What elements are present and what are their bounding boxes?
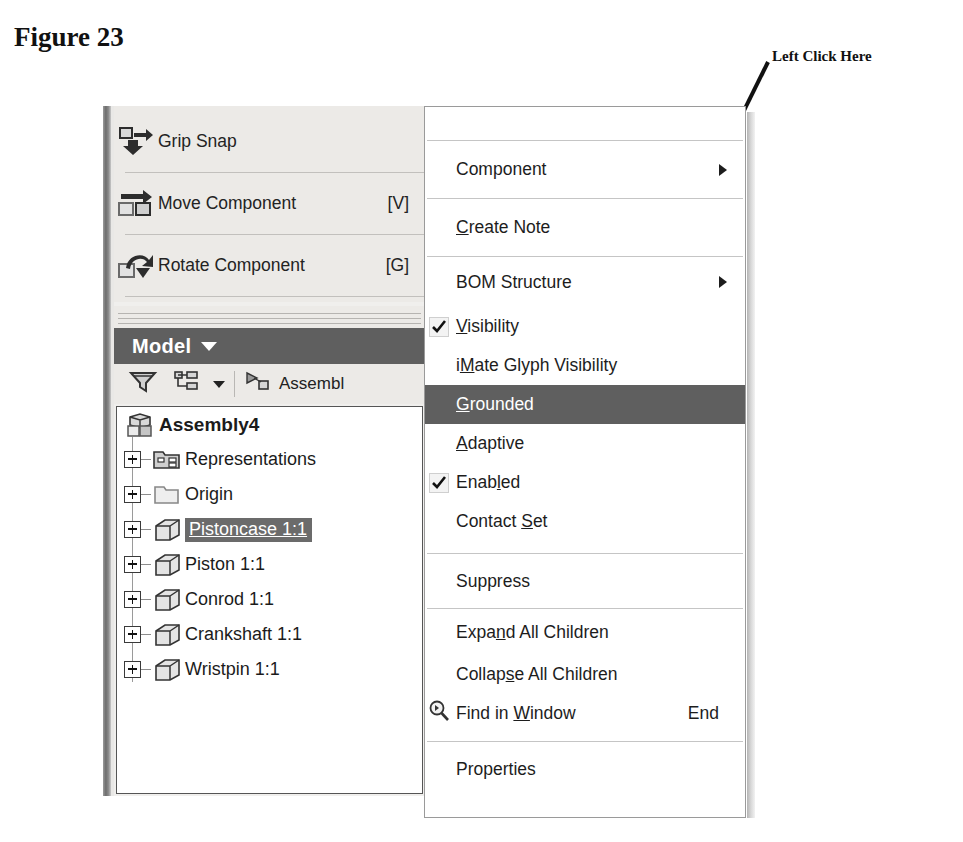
panel-splitter[interactable] xyxy=(114,306,425,328)
menu-item-bom-structure[interactable]: BOM Structure xyxy=(425,257,745,307)
model-tab[interactable]: Model xyxy=(114,328,425,364)
menu-item-properties[interactable]: Properties xyxy=(425,742,745,796)
menu-item-label: Expand All Children xyxy=(453,622,609,643)
tree-item-label: Representations xyxy=(185,449,316,470)
funnel-filter-icon[interactable] xyxy=(128,369,158,399)
menu-check xyxy=(425,699,453,728)
context-menu: Component Create Note BOM Structure Visi… xyxy=(424,106,746,818)
checkmark-icon xyxy=(429,473,449,493)
assembly-view-label: Assembl xyxy=(279,374,344,394)
menu-item-contact-set[interactable]: Contact Set xyxy=(425,502,745,541)
callout-label: Left Click Here xyxy=(772,48,872,65)
tree-root-assembly4[interactable]: Assembly4 xyxy=(117,407,422,442)
assembly-cube-icon xyxy=(125,412,159,438)
tree-item-label: Piston 1:1 xyxy=(185,554,265,575)
tree-branch-line xyxy=(141,529,151,530)
menu-item-label: BOM Structure xyxy=(453,272,572,293)
tool-grip-snap-label: Grip Snap xyxy=(158,131,237,152)
tree-item-label-selected: Pistoncase 1:1 xyxy=(185,518,312,542)
figure-title: Figure 23 xyxy=(14,22,124,53)
tool-separator-3 xyxy=(125,296,436,297)
menu-item-label: Contact Set xyxy=(453,511,547,532)
menu-item-accel: End xyxy=(688,703,745,724)
folder-icon xyxy=(151,482,185,508)
menu-item-create-note[interactable]: Create Note xyxy=(425,199,745,256)
representations-folder-icon xyxy=(151,447,185,473)
rotate-component-icon xyxy=(114,248,158,282)
menu-item-imate-glyph-visibility[interactable]: iMate Glyph Visibility xyxy=(425,346,745,385)
menu-item-grounded[interactable]: Grounded xyxy=(425,385,745,424)
tree-branch-line xyxy=(141,494,151,495)
tree-item-crankshaft[interactable]: Crankshaft 1:1 xyxy=(117,617,422,652)
menu-item-enabled[interactable]: Enabled xyxy=(425,463,745,502)
tree-item-origin[interactable]: Origin xyxy=(117,477,422,512)
menu-check xyxy=(425,317,453,337)
tree-item-label: Crankshaft 1:1 xyxy=(185,624,302,645)
part-cube-icon xyxy=(151,657,185,683)
menu-item-label: Component xyxy=(453,159,546,180)
expand-plus-icon[interactable] xyxy=(124,521,141,538)
browser-panel: Grip Snap Move Component [V] xyxy=(103,106,425,796)
context-menu-shadow xyxy=(747,112,755,818)
menu-item-label: Find in Window xyxy=(453,703,576,724)
menu-item-label: Adaptive xyxy=(453,433,524,454)
tool-rotate-component[interactable]: Rotate Component [G] xyxy=(114,234,425,296)
expand-plus-icon[interactable] xyxy=(124,556,141,573)
tree-branch-line xyxy=(141,459,151,460)
part-cube-icon xyxy=(151,587,185,613)
menu-item-label: Grounded xyxy=(453,394,534,415)
tree-root-label: Assembly4 xyxy=(159,414,259,436)
tree-item-label: Conrod 1:1 xyxy=(185,589,274,610)
toolbar-divider xyxy=(234,371,235,397)
tool-list: Grip Snap Move Component [V] xyxy=(114,106,425,302)
tool-move-component-label: Move Component xyxy=(158,193,296,214)
menu-item-find-in-window[interactable]: Find in Window End xyxy=(425,694,745,733)
menu-item-label: Properties xyxy=(453,759,536,780)
assembly-view-icon[interactable] xyxy=(243,369,275,399)
expand-plus-icon[interactable] xyxy=(124,661,141,678)
menu-item-label: Create Note xyxy=(453,217,550,238)
tree-view-caret-icon[interactable] xyxy=(212,375,226,393)
tree-item-pistoncase[interactable]: Pistoncase 1:1 xyxy=(117,512,422,547)
tree-branch-line xyxy=(141,564,151,565)
menu-item-component[interactable]: Component xyxy=(425,141,745,198)
expand-plus-icon[interactable] xyxy=(124,626,141,643)
tree-item-conrod[interactable]: Conrod 1:1 xyxy=(117,582,422,617)
menu-item-label: Enabled xyxy=(453,472,520,493)
menu-item-collapse-all-children[interactable]: Collapse All Children xyxy=(425,655,745,694)
menu-item-suppress[interactable]: Suppress xyxy=(425,554,745,608)
move-component-icon xyxy=(114,186,158,220)
menu-item-visibility[interactable]: Visibility xyxy=(425,307,745,346)
menu-item-expand-all-children[interactable]: Expand All Children xyxy=(425,609,745,655)
chevron-down-icon[interactable] xyxy=(201,342,217,351)
tree-branch-line xyxy=(141,599,151,600)
tree-item-label: Wristpin 1:1 xyxy=(185,659,280,680)
expand-plus-icon[interactable] xyxy=(124,451,141,468)
model-tree[interactable]: Assembly4 Representations xyxy=(116,406,423,794)
find-magnifier-icon xyxy=(427,699,451,728)
tree-branch-line xyxy=(141,669,151,670)
tree-item-representations[interactable]: Representations xyxy=(117,442,422,477)
menu-item-label: Visibility xyxy=(453,316,519,337)
tool-rotate-component-shortcut: [G] xyxy=(386,255,425,276)
tree-branch-line xyxy=(141,634,151,635)
menu-item-label: iMate Glyph Visibility xyxy=(453,355,617,376)
tool-rotate-component-label: Rotate Component xyxy=(158,255,305,276)
tool-grip-snap[interactable]: Grip Snap xyxy=(114,110,425,172)
part-cube-icon xyxy=(151,517,185,543)
tree-view-icon[interactable] xyxy=(172,369,200,399)
tool-move-component-shortcut: [V] xyxy=(388,193,425,214)
part-cube-icon xyxy=(151,622,185,648)
tree-item-label: Origin xyxy=(185,484,233,505)
grip-snap-icon xyxy=(114,124,158,158)
browser-toolbar: Assembl xyxy=(114,364,425,404)
menu-item-adaptive[interactable]: Adaptive xyxy=(425,424,745,463)
expand-plus-icon[interactable] xyxy=(124,486,141,503)
panel-left-scroll-edge xyxy=(103,106,111,796)
tree-item-wristpin[interactable]: Wristpin 1:1 xyxy=(117,652,422,687)
tool-move-component[interactable]: Move Component [V] xyxy=(114,172,425,234)
menu-item-label: Collapse All Children xyxy=(453,664,618,685)
checkmark-icon xyxy=(429,317,449,337)
tree-item-piston[interactable]: Piston 1:1 xyxy=(117,547,422,582)
expand-plus-icon[interactable] xyxy=(124,591,141,608)
